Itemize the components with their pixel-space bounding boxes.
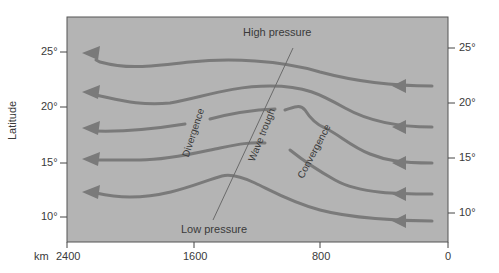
low-pressure-label: Low pressure	[181, 223, 247, 235]
left-tick-20: 20°	[41, 100, 58, 112]
y-axis-label: Latitude	[6, 101, 18, 140]
x-axis-unit: km	[34, 250, 49, 262]
easterly-wave-diagram	[0, 0, 499, 273]
left-tick-15: 15°	[41, 156, 58, 168]
left-tick-10: 10°	[41, 210, 58, 222]
x-tick-1600: 1600	[183, 250, 207, 262]
right-tick-20: 20°	[459, 96, 476, 108]
high-pressure-label: High pressure	[243, 26, 311, 38]
right-axis-ticks	[448, 48, 455, 213]
bottom-axis-ticks	[67, 242, 448, 248]
x-tick-0: 0	[445, 250, 451, 262]
right-tick-15: 15°	[459, 151, 476, 163]
left-tick-25: 25°	[41, 45, 58, 57]
left-axis-ticks	[60, 52, 67, 217]
right-tick-25: 25°	[459, 41, 476, 53]
right-tick-10: 10°	[459, 206, 476, 218]
x-tick-2400: 2400	[56, 250, 80, 262]
x-tick-800: 800	[312, 250, 330, 262]
